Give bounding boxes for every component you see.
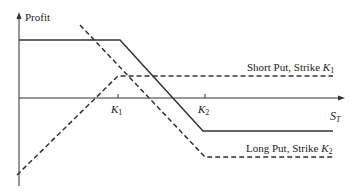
chart-canvas — [0, 0, 357, 194]
k2-label: K2 — [198, 104, 209, 117]
k1-label-sub: 1 — [118, 108, 122, 117]
long-put-legend-text: Long Put, Strike — [246, 142, 321, 154]
x-axis-label: ST — [330, 110, 340, 124]
k1-label: K1 — [111, 104, 122, 117]
x-axis-arrow-icon — [338, 96, 345, 101]
short-put-legend-text: Short Put, Strike — [247, 61, 323, 73]
k2-label-sub: 2 — [205, 108, 209, 117]
y-axis-label-text: Profit — [25, 11, 50, 23]
long-put-line — [80, 25, 333, 157]
long-put-legend-k: K — [321, 142, 328, 154]
short-put-legend: Short Put, Strike K1 — [247, 62, 334, 75]
total-profit-line — [19, 40, 333, 131]
y-axis-arrow-icon — [17, 12, 22, 19]
x-axis-label-sub: T — [336, 115, 340, 124]
short-put-legend-sub: 1 — [330, 66, 334, 75]
long-put-legend: Long Put, Strike K2 — [246, 143, 333, 156]
y-axis-label: Profit — [25, 12, 50, 23]
long-put-legend-sub: 2 — [329, 147, 333, 156]
